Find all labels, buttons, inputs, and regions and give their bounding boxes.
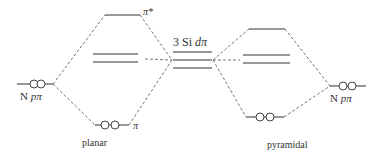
pyramidal-label: pyramidal bbox=[267, 139, 308, 150]
si-d-pi-label: 3 Si dπ bbox=[173, 35, 207, 50]
atom-label: N bbox=[330, 92, 338, 104]
right-n-p-pi-level bbox=[330, 82, 366, 90]
pi-star-label: π* bbox=[143, 6, 153, 17]
atom-label: N bbox=[20, 90, 28, 102]
si-label: 3 Si bbox=[173, 35, 192, 49]
d-pi-label: dπ bbox=[195, 35, 207, 49]
orbital-label: pπ bbox=[341, 92, 352, 104]
planar-label: planar bbox=[82, 137, 107, 148]
electron-icon bbox=[111, 121, 119, 129]
right-n-p-pi-label: N pπ bbox=[330, 92, 352, 104]
electron-icon bbox=[101, 121, 109, 129]
electron-icon bbox=[348, 82, 356, 90]
pi-label: π bbox=[133, 120, 138, 131]
planar-correlation-lines bbox=[53, 15, 172, 125]
electron-icon bbox=[37, 80, 45, 88]
pyramidal-bonding-level bbox=[246, 113, 284, 121]
electron-icon bbox=[266, 113, 274, 121]
mo-diagram bbox=[0, 0, 383, 160]
left-n-p-pi-level bbox=[17, 80, 53, 88]
electron-icon bbox=[339, 82, 347, 90]
planar-pi-level bbox=[95, 121, 129, 129]
pyramidal-correlation-lines bbox=[213, 29, 330, 117]
left-n-p-pi-label: N pπ bbox=[20, 90, 42, 102]
electron-icon bbox=[256, 113, 264, 121]
orbital-label: pπ bbox=[31, 90, 42, 102]
